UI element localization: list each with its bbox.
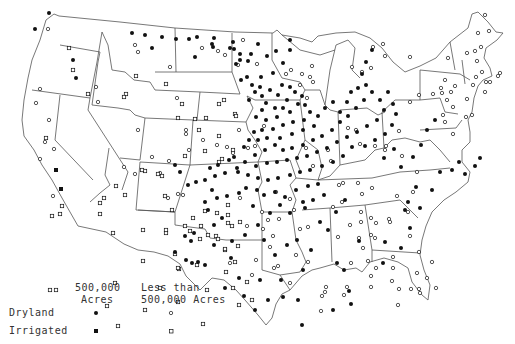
irrigated-small-symbol	[230, 224, 233, 227]
dryland-small-symbol	[136, 128, 139, 131]
dryland-small-symbol	[271, 234, 274, 237]
dryland-small-symbol	[346, 126, 349, 129]
dryland-large-symbol	[373, 138, 377, 142]
irrigated-small-symbol	[60, 204, 63, 207]
dryland-large-symbol	[208, 166, 212, 170]
dryland-small-symbol	[215, 143, 218, 146]
dryland-large-symbol	[260, 94, 264, 98]
dryland-large-symbol	[236, 170, 240, 174]
irrigated-small-symbol	[216, 237, 219, 240]
dryland-large-symbol	[276, 93, 280, 97]
irrigated-small-symbol	[231, 148, 234, 151]
dryland-large-symbol	[356, 86, 360, 90]
dryland-large-symbol	[210, 188, 214, 192]
dryland-small-symbol	[439, 86, 442, 89]
dryland-large-symbol	[231, 40, 235, 44]
dryland-large-symbol	[250, 83, 254, 87]
dryland-large-symbol	[316, 182, 320, 186]
dryland-small-symbol	[254, 258, 257, 261]
dryland-large-symbol	[196, 260, 200, 264]
legend-symbols	[94, 311, 173, 333]
dryland-small-symbol	[216, 49, 219, 52]
dryland-small-symbol	[418, 291, 421, 294]
dryland-small-symbol	[479, 45, 482, 48]
dryland-large-symbol	[212, 243, 216, 247]
dryland-small-symbol	[200, 46, 203, 49]
dryland-large-symbol	[237, 276, 241, 280]
dryland-small-symbol	[306, 260, 309, 263]
dryland-large-symbol	[438, 170, 442, 174]
dryland-large-symbol	[246, 59, 250, 63]
dryland-small-symbol	[288, 197, 291, 200]
dryland-large-symbol	[295, 156, 299, 160]
dryland-large-symbol	[316, 114, 320, 118]
dryland-large-symbol	[301, 268, 305, 272]
dryland-large-symbol	[281, 123, 285, 127]
dryland-large-symbol	[247, 138, 251, 142]
dryland-small-symbol	[349, 261, 352, 264]
dryland-large-symbol	[322, 193, 326, 197]
irrigated-small-symbol	[123, 193, 126, 196]
dryland-small-symbol	[320, 294, 323, 297]
irrigated-small-symbol	[193, 117, 196, 120]
dryland-small-symbol	[294, 253, 297, 256]
dryland-large-symbol	[331, 160, 335, 164]
dryland-small-symbol	[369, 274, 372, 277]
dryland-large-symbol	[326, 228, 330, 232]
irrigated-small-symbol	[143, 308, 146, 311]
dryland-large-symbol	[390, 123, 394, 127]
dryland-large-symbol	[254, 115, 258, 119]
dryland-large-symbol	[229, 256, 233, 260]
irrigated-small-symbol	[233, 260, 236, 263]
dryland-large-symbol	[234, 62, 238, 66]
dryland-large-symbol	[283, 195, 287, 199]
dryland-large-symbol	[290, 132, 294, 136]
legend-col1-header-line2: Acres	[81, 294, 114, 306]
dryland-large-symbol	[232, 47, 236, 51]
dryland-large-symbol	[323, 106, 327, 110]
dryland-small-symbol	[184, 132, 187, 135]
dryland-small-symbol	[359, 210, 362, 213]
irrigated-small-symbol	[176, 116, 179, 119]
dryland-large-symbol	[383, 240, 387, 244]
legend-row-dryland-label: Dryland	[9, 307, 55, 319]
dryland-small-symbol	[46, 27, 49, 30]
dryland-large-symbol	[251, 204, 255, 208]
dryland-small-symbol	[176, 192, 179, 195]
dryland-small-symbol	[187, 148, 190, 151]
dryland-small-symbol	[488, 80, 491, 83]
dryland-large-symbol	[392, 147, 396, 151]
dryland-small-symbol	[228, 261, 231, 264]
dryland-large-symbol	[203, 263, 207, 267]
dryland-large-symbol	[311, 138, 315, 142]
dryland-large-symbol	[346, 114, 350, 118]
dryland-small-symbol	[366, 259, 369, 262]
dryland-small-symbol	[388, 220, 391, 223]
dryland-large-symbol	[247, 98, 251, 102]
dryland-small-symbol	[331, 205, 334, 208]
dryland-small-symbol	[133, 172, 136, 175]
irrigated-small-symbol	[111, 231, 114, 234]
dryland-small-symbol	[359, 220, 362, 223]
dryland-small-symbol	[396, 303, 399, 306]
dryland-small-symbol	[446, 56, 449, 59]
dryland-small-symbol	[300, 72, 303, 75]
irrigated-small-symbol	[141, 228, 144, 231]
dryland-large-symbol	[280, 83, 284, 87]
legend-row-irrigated-label: Irrigated	[9, 325, 68, 337]
dryland-small-symbol	[292, 208, 295, 211]
irrigated-small-symbol	[48, 288, 51, 291]
dryland-large-symbol	[256, 42, 260, 46]
dryland-large-symbol	[281, 295, 285, 299]
dryland-large-symbol	[411, 155, 415, 159]
dryland-small-symbol	[391, 255, 394, 258]
irrigated-small-symbol	[140, 168, 143, 171]
dryland-large-symbol	[223, 171, 227, 175]
irrigated-small-symbol	[58, 212, 61, 215]
dryland-large-symbol	[266, 298, 270, 302]
dryland-small-symbol	[465, 51, 468, 54]
irrigated-large-symbol	[54, 168, 58, 172]
dryland-small-symbol	[181, 193, 184, 196]
dryland-large-symbol	[265, 161, 269, 165]
dryland-large-symbol	[206, 208, 210, 212]
